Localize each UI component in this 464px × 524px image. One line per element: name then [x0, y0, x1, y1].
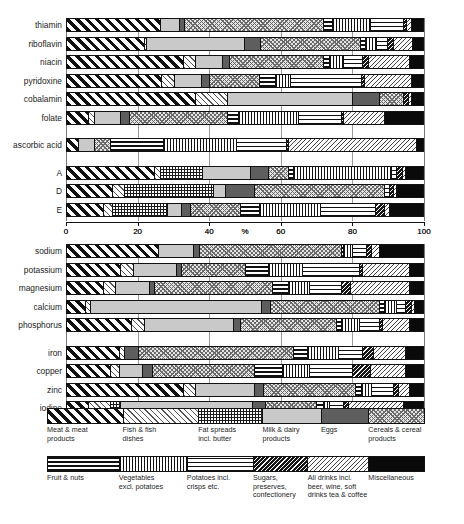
bar-segment-cereal: [229, 56, 324, 68]
table-row: pyridoxine: [66, 74, 424, 88]
table-row: thiamin: [66, 18, 424, 32]
bar-segment-potato: [352, 245, 367, 257]
bar-segment-meat: [67, 19, 160, 31]
bar-segment-milk: [195, 384, 255, 396]
bar-segment-sugar: [352, 365, 371, 377]
bar-segment-eggs: [250, 167, 269, 179]
legend-label-cereal: Cereals & cerealproducts: [368, 426, 447, 443]
panel-vitamins: thiaminriboflavinniacinpyridoxinecobalam…: [0, 18, 464, 210]
bar-segment-potato: [320, 204, 376, 216]
bar-segment-meat: [67, 38, 144, 50]
table-row: D: [66, 184, 424, 198]
legend-swatch-fat: [198, 409, 263, 423]
bar-segment-misc: [396, 185, 424, 197]
x-tick-label-20: 20: [133, 227, 142, 236]
bar-segment-misc: [409, 56, 424, 68]
bar-segment-misc: [405, 167, 424, 179]
x-tick-label-100: 100: [417, 227, 430, 236]
legend-swatch-meat: [48, 409, 123, 423]
bar-segment-milk: [94, 112, 122, 124]
bar-segment-drink: [362, 264, 409, 276]
x-tick-label-40: 40: [205, 227, 214, 236]
table-row: sodium: [66, 244, 424, 258]
table-row: calcium: [66, 300, 424, 314]
bar-segment-milk: [90, 301, 262, 313]
bar-segment-fish: [195, 93, 228, 105]
stacked-bar: [66, 244, 424, 258]
bar-segment-fat: [160, 167, 204, 179]
table-row: ascorbic acid: [66, 138, 424, 152]
legend-swatch-eggs: [321, 409, 369, 423]
bar-segment-meat: [67, 365, 110, 377]
bar-segment-milk: [195, 56, 223, 68]
bar-segment-misc: [411, 19, 424, 31]
bar-segment-milk: [167, 204, 182, 216]
bar-segment-misc: [389, 204, 424, 216]
bar-segment-milk: [202, 167, 251, 179]
bar-segment-meat: [67, 301, 85, 313]
legend-swatch-potato: [187, 457, 254, 471]
bar-segment-misc: [384, 112, 424, 124]
bar-segment-potato: [370, 19, 405, 31]
table-row: folate: [66, 111, 424, 125]
bar-segment-misc: [411, 93, 424, 105]
legend-swatch-bar-2: [47, 456, 425, 472]
legend-swatch-bar-1: [47, 408, 425, 424]
legend-swatch-milk: [262, 409, 321, 423]
bar-segment-meat: [67, 384, 183, 396]
bar-segment-milk: [158, 245, 195, 257]
bar-row-label: phosphorus: [18, 318, 62, 332]
bar-segment-milk: [213, 185, 226, 197]
bar-segment-cereal: [379, 93, 405, 105]
stacked-bar: [66, 74, 424, 88]
legend-labels-1: Meat & meatproductsFish & fishdishesFat …: [47, 426, 425, 456]
bar-row-label: riboflavin: [28, 37, 62, 51]
bar-segment-misc: [414, 301, 424, 313]
legend-row-1: Meat & meatproductsFish & fishdishesFat …: [47, 408, 425, 456]
bar-segment-misc: [409, 282, 424, 294]
bar-segment-milk: [174, 75, 202, 87]
bar-segment-potato: [236, 139, 287, 151]
legend-swatch-misc: [368, 457, 425, 471]
bar-segment-milk: [78, 139, 95, 151]
bar-segment-veg: [238, 112, 300, 124]
table-row: potassium: [66, 263, 424, 277]
bar-segment-fruit: [245, 264, 269, 276]
x-tick-60: [281, 222, 282, 226]
bar-segment-fish: [112, 185, 125, 197]
bar-segment-veg: [341, 319, 360, 331]
bar-segment-potato: [338, 347, 364, 359]
bar-segment-cereal: [190, 204, 241, 216]
figure-stacked-bar-nutrient-sources: thiaminriboflavinniacinpyridoxinecobalam…: [0, 0, 464, 524]
x-axis-title: %: [241, 227, 248, 236]
bar-row-label: zinc: [47, 383, 62, 397]
bar-segment-milk: [115, 282, 150, 294]
bar-segment-meat: [67, 167, 154, 179]
x-tick-label-0: 0: [64, 227, 68, 236]
x-tick-0: [66, 222, 67, 226]
table-row: E: [66, 203, 424, 217]
bar-segment-meat: [67, 319, 131, 331]
bar-segment-meat: [67, 185, 112, 197]
bar-segment-misc: [405, 347, 424, 359]
bar-segment-meat: [67, 347, 119, 359]
stacked-bar: [66, 364, 424, 378]
bar-segment-eggs: [124, 347, 139, 359]
bar-row-label: iron: [48, 346, 62, 360]
bar-segment-cereal: [154, 282, 272, 294]
stacked-bar: [66, 184, 424, 198]
x-tick-40: [209, 222, 210, 226]
bar-segment-veg: [384, 301, 397, 313]
bar-segment-fish: [131, 319, 144, 331]
bar-segment-fruit: [110, 139, 164, 151]
axis-line: [66, 222, 424, 223]
bar-segment-meat: [67, 93, 195, 105]
table-row: phosphorus: [66, 318, 424, 332]
stacked-bar: [66, 18, 424, 32]
x-tick-80: [352, 222, 353, 226]
bar-segment-fat: [112, 204, 168, 216]
bar-segment-drink: [288, 139, 417, 151]
bar-segment-misc: [411, 75, 424, 87]
bar-segment-cereal: [199, 245, 342, 257]
stacked-bar: [66, 383, 424, 397]
